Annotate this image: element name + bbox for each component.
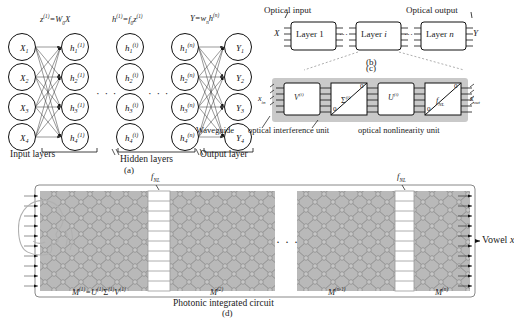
panel-a-neural-network: X1X2X3X4h1(1)h2(1)h3(1)h4(1)h1(i)h2(i)h3…	[0, 0, 262, 168]
caption-panel-a: (a)	[124, 166, 134, 175]
sigma-corner-zero-bottom: 0	[333, 106, 337, 113]
label-output-layer: Output layer	[200, 150, 248, 160]
caption-panel-c: (c)	[366, 64, 376, 73]
block-label-u: U(i)	[388, 94, 398, 102]
label-fnl-column-1: fNL	[151, 172, 160, 181]
label-x-out: xout	[470, 95, 480, 103]
label-x-in: xin	[258, 95, 265, 103]
block-label-fnl: fNL	[436, 97, 444, 105]
box-layer-i: Layer i	[361, 30, 387, 39]
symbol-input-x: X	[274, 29, 280, 38]
ellipsis-hidden-left: · · ·	[96, 88, 118, 99]
node-hiddeni-1	[117, 34, 144, 61]
panel-c-layer-internals: xin xout V(i) Σ(i) 0 0 U(i) fNL 0 0 Wave…	[256, 70, 482, 136]
block-label-v: V(i)	[294, 94, 304, 102]
ellipsis-panel-d: · · ·	[276, 236, 299, 248]
sigma-corner-zero-top: 0	[360, 83, 364, 90]
label-input-layers: Input layers	[10, 150, 55, 160]
box-layer-1: Layer 1	[296, 30, 324, 39]
block-label-sigma: Σ(i)	[341, 97, 350, 105]
ellipsis-b-right: ···	[404, 30, 413, 39]
equation-input-weight: z(1)=W0X	[40, 15, 70, 24]
mesh-label-1: M(1)=U(1)Σ(1)V(1)	[72, 288, 126, 297]
node-hiddeni-3	[117, 94, 144, 121]
node-hiddeni-2	[117, 64, 144, 91]
label-optical-input: Optical input	[264, 6, 311, 15]
label-hidden-layers: Hidden layers	[120, 155, 173, 165]
label-vowel-output: Vowel x	[482, 235, 514, 245]
fnl-corner-zero-top: 0	[454, 83, 458, 90]
mesh-label-2: M(2)	[210, 288, 223, 297]
equation-activation: h(1)=f0z(1)	[112, 15, 143, 24]
panel-d-photonic-circuit: fNL fNL M(1)=U(1)Σ(1)V(1) M(2) M(n-1) M(…	[18, 178, 482, 315]
caption-panel-d: (d)	[222, 309, 233, 318]
equation-output: Y=wnh(n)	[190, 14, 219, 23]
node-hiddeni-4	[117, 124, 144, 151]
annotation-waveguide: Waveguide	[196, 126, 234, 135]
label-optical-output: Optical output	[406, 6, 458, 15]
annotation-interference-unit: optical interference unit	[248, 126, 329, 135]
mesh-label-n: M(n)	[435, 288, 448, 297]
mesh-label-n-1: M(n-1)	[328, 288, 346, 297]
ellipsis-hidden-right: · · ·	[148, 88, 170, 99]
ellipsis-b-left: ···	[339, 30, 348, 39]
box-layer-n: Layer n	[426, 30, 454, 39]
symbol-output-y: Y	[473, 29, 478, 38]
label-fnl-column-2: fNL	[397, 172, 406, 181]
fnl-corner-zero-bottom: 0	[427, 106, 431, 113]
annotation-nonlinearity-unit: optical nonlinearity unit	[358, 126, 440, 135]
panel-b-layer-chain: Optical input Optical output X Y Layer 1…	[258, 0, 482, 72]
